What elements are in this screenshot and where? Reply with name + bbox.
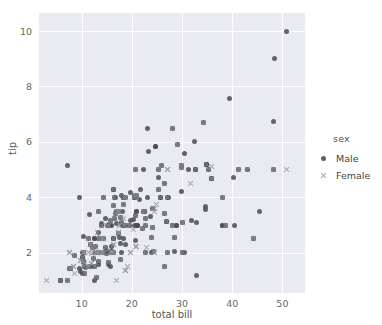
data-point-male [121, 223, 126, 228]
data-point-male [251, 236, 256, 241]
data-point-male [111, 236, 116, 241]
data-point-male [109, 223, 114, 228]
data-point-male [162, 264, 167, 269]
data-point-female [151, 208, 158, 215]
data-point-female [111, 215, 118, 222]
data-point-female [88, 260, 95, 267]
data-point-female [118, 219, 125, 226]
data-point-female [140, 208, 147, 215]
data-point-male [201, 120, 206, 125]
data-point-male [114, 209, 119, 214]
data-point-male [134, 209, 139, 214]
data-point-male [99, 221, 104, 226]
data-point-female [107, 217, 114, 224]
data-point-female [155, 166, 162, 173]
data-point-female [132, 166, 139, 173]
data-point-male [103, 245, 108, 250]
data-point-female [99, 235, 106, 242]
data-point-male [150, 225, 155, 230]
legend-item-male[interactable]: Male [316, 150, 380, 167]
data-point-male [101, 236, 106, 241]
data-point-male [236, 167, 241, 172]
data-point-male [113, 211, 118, 216]
data-point-male [87, 212, 92, 217]
data-point-female [161, 263, 168, 270]
data-point-female [120, 222, 127, 229]
data-point-male [133, 213, 138, 218]
data-point-female [208, 175, 215, 182]
legend-marker-x-icon [316, 167, 333, 184]
data-point-female [77, 257, 84, 264]
data-point-male [133, 238, 138, 243]
data-point-male [170, 223, 175, 228]
data-point-female [192, 166, 199, 173]
data-point-female [88, 260, 95, 267]
y-tick-label: 2 [4, 247, 32, 258]
data-point-female [149, 205, 156, 212]
data-point-male [203, 204, 208, 209]
data-point-female [105, 222, 112, 229]
data-point-male [96, 209, 101, 214]
data-point-male [135, 223, 140, 228]
data-point-female [105, 259, 112, 266]
data-point-female [120, 201, 127, 208]
data-point-male [83, 265, 88, 270]
data-point-female [161, 180, 168, 187]
data-point-female [153, 201, 160, 208]
data-point-male [93, 244, 98, 249]
data-point-male [92, 236, 97, 241]
data-point-male [142, 209, 147, 214]
data-point-female [250, 235, 257, 242]
data-point-male [96, 259, 101, 264]
data-point-male [204, 162, 209, 167]
plot-area [39, 13, 305, 293]
data-point-male [209, 176, 214, 181]
data-point-female [187, 180, 194, 187]
data-point-male [116, 209, 121, 214]
data-point-male [133, 167, 138, 172]
data-point-female [102, 221, 109, 228]
data-point-female [57, 277, 64, 284]
data-point-male [148, 214, 153, 219]
data-point-female [222, 222, 229, 229]
data-point-male [96, 236, 101, 241]
data-point-male [156, 175, 161, 180]
data-point-female [122, 267, 129, 274]
gridline-vertical [282, 13, 283, 293]
data-point-female [64, 277, 71, 284]
data-point-female [151, 205, 158, 212]
data-point-male [140, 226, 145, 231]
data-point-female [244, 166, 251, 173]
data-point-female [124, 263, 131, 270]
gridline-vertical [232, 13, 233, 293]
data-point-female [43, 277, 50, 284]
data-point-male [111, 236, 116, 241]
data-point-male [123, 223, 128, 228]
gridline-horizontal [39, 197, 305, 198]
data-point-male [141, 167, 146, 172]
data-point-female [70, 263, 77, 270]
data-point-male [117, 235, 122, 240]
scatter-plot-figure: 246810 1020304050 total bill tip sex Mal… [0, 0, 382, 325]
data-point-male [121, 223, 126, 228]
data-point-female [95, 258, 102, 265]
legend-title: sex [333, 133, 380, 144]
data-point-male [119, 220, 124, 225]
data-point-male [141, 209, 146, 214]
data-point-female [92, 243, 99, 250]
data-point-male [193, 167, 198, 172]
data-point-male [114, 221, 119, 226]
legend-item-female[interactable]: Female [316, 167, 380, 184]
data-point-female [203, 161, 210, 168]
data-point-male [118, 215, 123, 220]
data-point-female [155, 186, 162, 193]
data-point-male [134, 209, 139, 214]
data-point-male [127, 223, 132, 228]
data-point-male [164, 219, 169, 224]
data-point-male [186, 167, 191, 172]
data-point-female [67, 265, 74, 272]
data-point-male [106, 262, 111, 267]
data-point-male [138, 187, 143, 192]
data-point-female [149, 224, 156, 231]
gridline-horizontal [39, 142, 305, 143]
